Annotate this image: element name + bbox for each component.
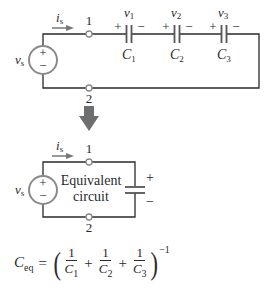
eq-cap-plus: + xyxy=(146,170,154,185)
formula-plus: + xyxy=(118,255,126,272)
transform-arrow-icon xyxy=(79,106,99,131)
c3-plus: + xyxy=(209,19,216,34)
formula-exponent: −1 xyxy=(159,244,170,255)
node-1-label: 1 xyxy=(86,13,93,28)
c2-minus: − xyxy=(185,19,192,34)
formula-term-2: 1 C2 xyxy=(99,246,113,281)
c1-plus: + xyxy=(114,19,121,34)
c1-voltage: v1 xyxy=(124,5,134,21)
formula-lhs: Ceq xyxy=(14,254,33,273)
source-label: vs xyxy=(15,182,25,198)
capacitor-c1 xyxy=(127,25,132,43)
node-2-label: 2 xyxy=(86,91,93,106)
formula-open-paren: ( xyxy=(54,247,61,279)
capacitor-c3 xyxy=(222,25,227,43)
circuit-label: circuit xyxy=(73,189,109,204)
c2-name: C2 xyxy=(170,47,184,64)
node-1-icon xyxy=(86,31,92,37)
current-label: is xyxy=(56,138,64,154)
equivalent-label: Equivalent xyxy=(61,173,122,188)
c1-minus: − xyxy=(137,19,144,34)
capacitor-c2 xyxy=(175,25,180,43)
equivalent-capacitance-formula: Ceq = ( 1 C1 + 1 C2 + 1 C3 ) −1 xyxy=(14,246,170,281)
formula-term-1: 1 C1 xyxy=(65,246,79,281)
formula-plus: + xyxy=(84,255,92,272)
node-1-label: 1 xyxy=(86,141,93,156)
eq-cap-minus: − xyxy=(146,194,154,209)
c2-plus: + xyxy=(162,19,169,34)
node-1-icon xyxy=(86,159,92,165)
current-label: is xyxy=(56,10,64,26)
formula-term-3: 1 C3 xyxy=(133,246,147,281)
c2-voltage: v2 xyxy=(171,5,181,21)
source-label: vs xyxy=(15,52,25,68)
c3-voltage: v3 xyxy=(218,5,229,21)
formula-close-paren: ) xyxy=(150,247,157,279)
c1-name: C1 xyxy=(122,47,136,64)
source-minus: − xyxy=(39,58,46,73)
formula-equals: = xyxy=(38,255,46,272)
top-circuit: + − vs is 1 2 + − v1 C1 + − v2 C2 + − v3… xyxy=(15,5,259,106)
source-minus: − xyxy=(39,188,46,203)
equivalent-capacitor-icon xyxy=(125,187,145,193)
equivalent-circuit: + − + − vs is 1 2 Equivalent circuit xyxy=(15,138,154,235)
c3-minus: − xyxy=(232,19,239,34)
node-2-label: 2 xyxy=(86,220,93,235)
c3-name: C3 xyxy=(217,47,231,64)
